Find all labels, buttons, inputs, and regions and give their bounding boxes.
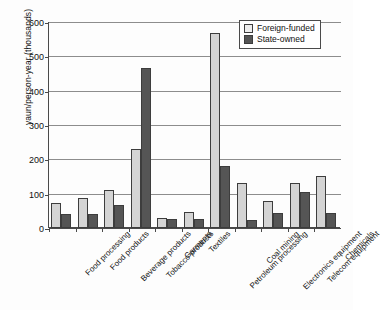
bar xyxy=(247,220,257,228)
bar xyxy=(184,212,194,228)
bar xyxy=(78,198,88,228)
legend-swatch-icon xyxy=(244,35,253,44)
bar-group xyxy=(261,22,288,228)
bar-group xyxy=(314,22,341,228)
bar-group xyxy=(288,22,315,228)
bar-group xyxy=(76,22,103,228)
plot-area: 0100200300400500600 xyxy=(48,22,340,228)
legend-label: State-owned xyxy=(257,35,305,44)
bar xyxy=(61,214,71,228)
bar xyxy=(114,205,124,228)
x-axis-labels: Food processingFood productsBeverage pro… xyxy=(48,230,348,308)
bar xyxy=(290,183,300,228)
bar xyxy=(263,201,273,228)
bar xyxy=(88,214,98,228)
legend: Foreign-funded State-owned xyxy=(239,20,321,49)
bars-layer xyxy=(49,22,341,228)
bar-group xyxy=(208,22,235,228)
bar xyxy=(273,213,283,228)
bar-group xyxy=(182,22,209,228)
bar xyxy=(131,149,141,228)
bar xyxy=(104,190,114,228)
bar xyxy=(316,176,326,228)
bar xyxy=(210,33,220,228)
bar xyxy=(220,166,230,228)
bar-group xyxy=(102,22,129,228)
bar xyxy=(194,219,204,228)
bar xyxy=(141,68,151,228)
bar-group xyxy=(155,22,182,228)
bar xyxy=(167,219,177,228)
bar xyxy=(300,192,310,228)
bar xyxy=(51,203,61,228)
bar-group xyxy=(129,22,156,228)
legend-item-foreign-funded: Foreign-funded xyxy=(244,23,315,34)
bar-group xyxy=(235,22,262,228)
bar xyxy=(237,183,247,228)
bar xyxy=(326,213,336,228)
x-axis-label: Petroleum processing xyxy=(249,230,309,290)
bar-group xyxy=(49,22,76,228)
legend-swatch-icon xyxy=(244,24,253,33)
bar xyxy=(157,218,167,228)
gridline: 0 xyxy=(49,228,341,229)
legend-item-state-owned: State-owned xyxy=(244,34,315,45)
legend-label: Foreign-funded xyxy=(257,24,315,33)
